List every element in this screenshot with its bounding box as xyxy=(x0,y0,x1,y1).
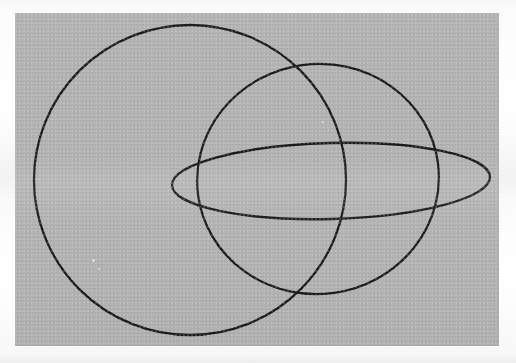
figure-panel xyxy=(15,13,499,346)
figure-drawing xyxy=(15,13,499,346)
scanned-page xyxy=(0,0,516,363)
horizontal-flat-ellipse xyxy=(171,139,491,223)
large-left-circle xyxy=(34,25,346,335)
